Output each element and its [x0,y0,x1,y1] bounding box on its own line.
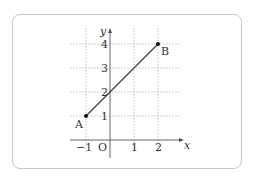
segment-ab [86,44,158,116]
point-a [84,114,88,118]
y-axis-label: y [99,25,107,38]
point-b-label: B [161,45,169,58]
point-b [156,42,160,46]
origin-label: O [98,141,107,154]
coordinate-plane: y x O −1 1 2 1 2 3 4 A B [0,0,253,178]
y-tick-3: 3 [101,62,108,75]
y-tick-1: 1 [101,110,108,123]
x-tick-1: 1 [131,141,138,154]
y-axis-arrow-icon [108,28,112,33]
x-tick-2: 2 [155,141,162,154]
x-axis-label: x [184,139,191,152]
x-tick-neg1: −1 [76,141,92,154]
point-a-label: A [74,118,84,131]
y-tick-4: 4 [101,38,108,51]
y-tick-2: 2 [101,86,108,99]
